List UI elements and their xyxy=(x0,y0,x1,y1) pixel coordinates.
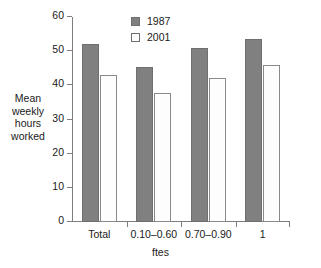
y-axis-tick: 30 xyxy=(67,119,72,120)
x-axis-category-label: 1 xyxy=(213,228,313,241)
bar-1987-Total xyxy=(82,44,99,222)
bar-2001-Total xyxy=(100,75,117,222)
bar-1987-0.70–0.90 xyxy=(191,48,208,222)
x-axis-title: ftes xyxy=(0,246,321,258)
plot-area: 0102030405060 xyxy=(72,17,290,222)
bar-1987-0.10–0.60 xyxy=(136,67,153,222)
y-axis-tick: 0 xyxy=(67,221,72,222)
y-axis-tick: 20 xyxy=(67,153,72,154)
y-axis-tick-label: 30 xyxy=(42,112,64,125)
bar-2001-0.70–0.90 xyxy=(209,78,226,222)
y-axis-line xyxy=(72,17,73,222)
bar-2001-0.10–0.60 xyxy=(154,93,171,222)
x-axis-separator xyxy=(181,222,182,227)
y-axis-tick-label: 50 xyxy=(42,43,64,56)
y-axis-tick: 40 xyxy=(67,84,72,85)
y-axis-tick-label: 40 xyxy=(42,77,64,90)
x-axis-separator xyxy=(127,222,128,227)
y-axis-tick: 10 xyxy=(67,187,72,188)
y-axis-tick-label: 10 xyxy=(42,180,64,193)
x-axis-separator xyxy=(289,222,290,227)
x-axis-separator xyxy=(236,222,237,227)
y-axis-tick: 50 xyxy=(67,50,72,51)
bar-1987-1 xyxy=(245,39,262,222)
bar-2001-1 xyxy=(263,65,280,222)
y-axis-tick-label: 20 xyxy=(42,146,64,159)
y-axis-tick: 60 xyxy=(67,16,72,17)
bar-chart: Mean weekly hours worked 1987 2001 01020… xyxy=(0,0,321,268)
y-axis-tick-label: 60 xyxy=(42,9,64,22)
y-axis-tick-label: 0 xyxy=(42,214,64,227)
